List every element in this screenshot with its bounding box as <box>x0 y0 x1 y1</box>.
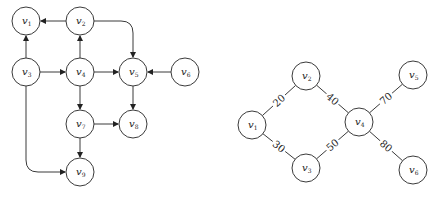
left-node-v8: v8 <box>119 110 147 138</box>
right-node-v4: v4 <box>345 108 373 136</box>
left-node-v7: v7 <box>66 110 94 138</box>
right-node-v1: v1 <box>238 111 266 139</box>
directed-graph-nodes: v1v2v3v4v5v6v7v8v9 <box>12 7 199 186</box>
right-node-v2: v2 <box>292 62 320 90</box>
left-node-v2: v2 <box>66 7 94 35</box>
directed-graph-edges <box>26 21 171 172</box>
left-node-v1: v1 <box>12 7 40 35</box>
right-node-v3: v3 <box>292 154 320 182</box>
left-node-v6: v6 <box>171 58 199 86</box>
left-node-v4: v4 <box>66 58 94 86</box>
edge-weight: 40 <box>324 91 341 108</box>
left-node-v9: v9 <box>66 158 94 186</box>
left-node-v5: v5 <box>119 58 147 86</box>
weighted-graph-edges: 203040507080 <box>262 84 402 161</box>
edge-v2-v5 <box>94 21 133 57</box>
edge-v3-v9 <box>26 86 65 172</box>
edge-weight: 50 <box>324 137 341 154</box>
left-node-v3: v3 <box>12 58 40 86</box>
diagram-canvas: v1v2v3v4v5v6v7v8v9 203040507080 v1v2v3v4… <box>0 0 428 204</box>
right-node-v5: v5 <box>399 61 427 89</box>
weighted-graph-nodes: v1v2v3v4v5v6 <box>238 61 427 184</box>
right-node-v6: v6 <box>399 156 427 184</box>
edge-weight: 30 <box>271 138 288 155</box>
edge-weight: 70 <box>378 90 395 107</box>
